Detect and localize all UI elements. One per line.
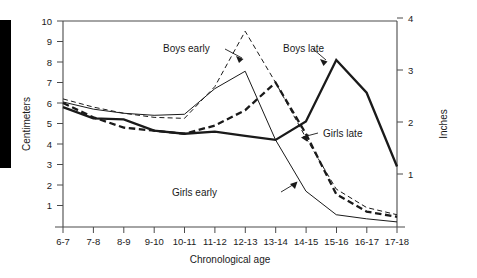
right-tick-2: 2 (408, 117, 413, 128)
label-boys-early: Boys early (163, 43, 210, 54)
series-line-boys-late (63, 60, 397, 167)
arrowhead-girls-early (290, 182, 298, 190)
left-tick-1: 1 (47, 200, 52, 211)
left-tick-6: 6 (47, 98, 52, 109)
annotation-arrowheads (236, 56, 328, 189)
right-axis-ticks (397, 18, 403, 174)
left-tick-7: 7 (47, 77, 52, 88)
label-girls-early: Girls early (172, 187, 217, 198)
series-line-girls-late (63, 83, 397, 217)
leader-boys-early (225, 49, 242, 58)
growth-velocity-chart: 10 9 8 7 6 5 4 3 2 1 4 3 2 1 (0, 0, 477, 278)
left-tick-9: 9 (47, 36, 52, 47)
x-axis-tick-labels: 6-7 7-8 8-9 9-10 10-11 11-12 12-13 13-14… (56, 236, 409, 247)
left-tick-4: 4 (47, 139, 52, 150)
label-girls-late: Girls late (323, 128, 363, 139)
x-tick-6-7: 6-7 (56, 236, 70, 247)
x-tick-15-16: 15-16 (324, 236, 348, 247)
left-tick-5: 5 (47, 118, 52, 129)
left-tick-2: 2 (47, 180, 52, 191)
x-tick-16-17: 16-17 (355, 236, 379, 247)
right-tick-1: 1 (408, 169, 413, 180)
annotation-leaders (225, 49, 326, 192)
right-tick-4: 4 (408, 13, 413, 24)
left-axis-ticks (57, 21, 63, 206)
left-tick-8: 8 (47, 57, 52, 68)
x-tick-14-15: 14-15 (294, 236, 318, 247)
series-line-girls-early (63, 71, 397, 222)
x-tick-13-14: 13-14 (264, 236, 288, 247)
data-series-layer (63, 31, 397, 222)
left-axis-tick-labels: 10 9 8 7 6 5 4 3 2 1 (41, 16, 52, 212)
x-axis-title: Chronological age (190, 254, 271, 265)
chart-figure: 10 9 8 7 6 5 4 3 2 1 4 3 2 1 (0, 0, 477, 278)
x-tick-7-8: 7-8 (87, 236, 101, 247)
x-tick-9-10: 9-10 (145, 236, 164, 247)
left-tick-3: 3 (47, 159, 52, 170)
x-tick-17-18: 17-18 (385, 236, 409, 247)
right-axis-tick-labels: 4 3 2 1 (408, 13, 413, 180)
x-tick-8-9: 8-9 (117, 236, 131, 247)
x-tick-11-12: 11-12 (203, 236, 227, 247)
x-axis-ticks (63, 227, 397, 233)
right-tick-3: 3 (408, 65, 413, 76)
label-boys-late: Boys late (283, 43, 325, 54)
y-axis-title: Centimeters (21, 97, 32, 151)
x-tick-10-11: 10-11 (173, 236, 197, 247)
arrowhead-boys-late (320, 59, 328, 66)
left-tick-10: 10 (41, 16, 52, 27)
y2-axis-title: Inches (438, 109, 449, 138)
x-tick-12-13: 12-13 (233, 236, 257, 247)
